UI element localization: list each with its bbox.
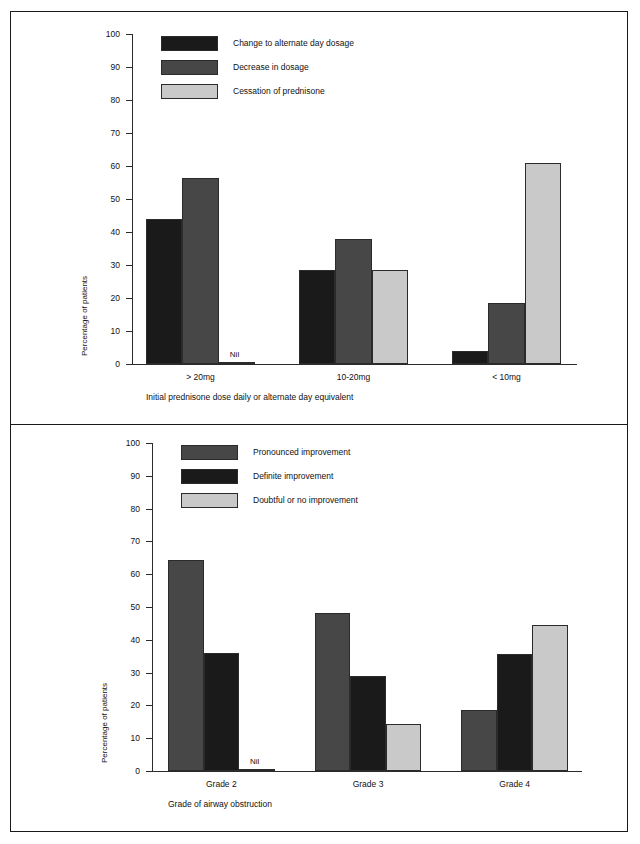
bar xyxy=(497,654,533,771)
legend-swatch xyxy=(161,84,218,99)
legend-label: Decrease in dosage xyxy=(233,62,309,72)
bar xyxy=(488,303,524,364)
x-axis-category-label: > 20mg xyxy=(186,372,215,382)
bar xyxy=(219,362,255,365)
bar xyxy=(386,724,422,771)
legend-swatch xyxy=(181,469,238,484)
bar xyxy=(532,625,568,771)
x-axis-category-label: Grade 2 xyxy=(206,779,237,789)
bar xyxy=(168,560,204,771)
y-axis-tick-label: 20 xyxy=(90,294,120,302)
bar xyxy=(182,178,218,364)
y-axis-tick xyxy=(126,34,132,35)
y-axis-tick-label: 50 xyxy=(110,603,140,611)
bar xyxy=(525,163,561,364)
legend-swatch xyxy=(181,445,238,460)
y-axis-tick-label: 0 xyxy=(110,767,140,775)
y-axis-tick xyxy=(146,541,152,542)
bar xyxy=(335,239,371,364)
y-axis-title: Percentage of patients xyxy=(80,276,89,356)
y-axis-tick xyxy=(126,331,132,332)
y-axis-tick xyxy=(146,705,152,706)
bar xyxy=(452,351,488,364)
x-axis-title: Grade of airway obstruction xyxy=(168,799,272,809)
y-axis-tick-label: 40 xyxy=(90,228,120,236)
y-axis-tick xyxy=(146,738,152,739)
y-axis-tick-label: 60 xyxy=(90,162,120,170)
bar xyxy=(350,676,386,771)
y-axis-tick xyxy=(126,100,132,101)
chart-panel-prednisone: 0102030405060708090100Percentage of pati… xyxy=(11,12,627,425)
y-axis-tick-label: 10 xyxy=(90,327,120,335)
y-axis-tick xyxy=(126,199,132,200)
y-axis-tick xyxy=(126,298,132,299)
chart-panel-airway: 0102030405060708090100Percentage of pati… xyxy=(11,425,627,832)
nil-annotation: Nil xyxy=(250,757,259,766)
y-axis-tick xyxy=(126,265,132,266)
y-axis-tick xyxy=(146,443,152,444)
y-axis-tick-label: 0 xyxy=(90,360,120,368)
legend-label: Definite improvement xyxy=(253,471,333,481)
x-axis-title: Initial prednisone dose daily or alterna… xyxy=(146,392,353,402)
bar xyxy=(299,270,335,364)
x-axis-category-label: 10-20mg xyxy=(337,372,371,382)
y-axis-tick-label: 100 xyxy=(90,30,120,38)
legend-label: Cessation of prednisone xyxy=(233,86,325,96)
y-axis-tick xyxy=(146,673,152,674)
y-axis-tick-label: 80 xyxy=(90,96,120,104)
y-axis-tick xyxy=(126,166,132,167)
y-axis-tick xyxy=(146,640,152,641)
y-axis-tick xyxy=(146,476,152,477)
y-axis-tick-label: 90 xyxy=(90,63,120,71)
x-axis-category-label: Grade 3 xyxy=(353,779,384,789)
y-axis-tick xyxy=(126,67,132,68)
y-axis-tick xyxy=(126,232,132,233)
y-axis-tick-label: 30 xyxy=(110,669,140,677)
y-axis-tick-label: 10 xyxy=(110,734,140,742)
y-axis-tick-label: 70 xyxy=(90,129,120,137)
y-axis-title: Percentage of patients xyxy=(100,683,109,763)
x-axis-line xyxy=(132,364,577,365)
y-axis-line xyxy=(152,443,153,771)
y-axis-tick-label: 100 xyxy=(110,439,140,447)
bar xyxy=(239,769,275,772)
y-axis-tick-label: 30 xyxy=(90,261,120,269)
bar xyxy=(146,219,182,364)
legend-swatch xyxy=(161,60,218,75)
y-axis-tick-label: 50 xyxy=(90,195,120,203)
y-axis-tick xyxy=(146,509,152,510)
legend-swatch xyxy=(181,493,238,508)
bar xyxy=(461,710,497,771)
nil-annotation: Nil xyxy=(230,350,239,359)
legend-label: Doubtful or no improvement xyxy=(253,495,358,505)
bar xyxy=(315,613,351,771)
y-axis-tick-label: 90 xyxy=(110,472,140,480)
x-axis-line xyxy=(152,771,582,772)
bar xyxy=(204,653,240,771)
x-axis-category-label: Grade 4 xyxy=(499,779,530,789)
legend-label: Change to alternate day dosage xyxy=(233,38,354,48)
figure-frame: 0102030405060708090100Percentage of pati… xyxy=(10,11,628,832)
y-axis-tick xyxy=(146,574,152,575)
y-axis-tick-label: 70 xyxy=(110,537,140,545)
y-axis-tick-label: 60 xyxy=(110,570,140,578)
y-axis-tick-label: 80 xyxy=(110,505,140,513)
bar xyxy=(372,270,408,364)
legend-label: Pronounced improvement xyxy=(253,447,350,457)
y-axis-tick-label: 20 xyxy=(110,701,140,709)
x-axis-category-label: < 10mg xyxy=(492,372,521,382)
y-axis-tick-label: 40 xyxy=(110,636,140,644)
y-axis-line xyxy=(132,34,133,364)
legend-swatch xyxy=(161,36,218,51)
y-axis-tick xyxy=(126,133,132,134)
y-axis-tick xyxy=(146,607,152,608)
